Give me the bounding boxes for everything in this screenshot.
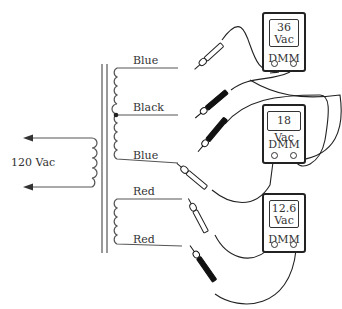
- meter-jack-red: [271, 241, 278, 248]
- probe-red-3: [186, 197, 209, 233]
- meter-reading-unit: Vac: [270, 215, 298, 227]
- meter-label: DMM: [264, 233, 304, 246]
- meter-jack-black: [290, 60, 297, 67]
- probe-black-2: [196, 117, 228, 154]
- meter1-lead-black: [231, 72, 290, 90]
- multimeter-36vac: 36 Vac DMM: [262, 12, 306, 72]
- meter-jack-black: [290, 152, 297, 159]
- meter-reading-unit: Vac: [270, 34, 298, 46]
- meter3-lead-black: [215, 250, 296, 304]
- wire-label-blue-top: Blue: [133, 55, 158, 66]
- wire-label-blue-bottom: Blue: [133, 150, 158, 161]
- wire-label-black: Black: [133, 102, 164, 113]
- probe-black-3: [188, 244, 218, 283]
- center-tap-dot: [114, 113, 119, 118]
- meter-display: 12.6 Vac: [269, 200, 299, 228]
- meter-jack-red: [271, 152, 278, 159]
- multimeter-12-6vac: 12.6 Vac DMM: [262, 193, 306, 253]
- meter-label: DMM: [264, 52, 304, 65]
- meter-label: DMM: [264, 138, 304, 151]
- meter-jack-red: [271, 60, 278, 67]
- wire-label-red-bottom: Red: [133, 234, 155, 245]
- transformer-test-diagram: Blue Black Blue Red Red 120 Vac 36 Vac D…: [0, 0, 342, 309]
- probe-black-1: [193, 89, 228, 120]
- multimeter-18vac: 18 Vac DMM: [262, 104, 306, 164]
- wire-label-red-top: Red: [133, 186, 155, 197]
- meter-jack-black: [290, 241, 297, 248]
- arrow-left-icon: [23, 184, 33, 191]
- probe-red-1: [193, 42, 225, 71]
- meter-display: 18 Vac: [267, 111, 301, 131]
- primary-voltage-label: 120 Vac: [11, 157, 55, 168]
- arrow-left-icon: [23, 135, 33, 142]
- probe-red-2: [175, 161, 208, 190]
- meter-display: 36 Vac: [269, 19, 299, 47]
